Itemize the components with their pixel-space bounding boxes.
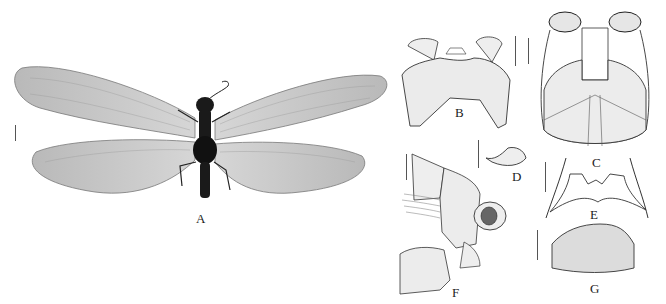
panel-b-plate: B	[400, 20, 520, 150]
panel-label-b: B	[455, 106, 464, 119]
plate-b-drawing	[400, 20, 520, 150]
panel-f-terminalia-lateral: F	[400, 150, 540, 304]
scale-bar-f	[406, 154, 407, 180]
panel-a-specimen: A	[0, 50, 400, 250]
scale-bar-b	[515, 36, 516, 66]
scale-bar-e	[545, 162, 546, 192]
terminalia-f-drawing	[400, 150, 540, 304]
panel-g-subgenital-plate: G	[530, 220, 666, 304]
scale-bar-a	[15, 125, 16, 141]
panel-label-f: F	[452, 286, 459, 299]
scale-bar-g	[537, 230, 538, 260]
scale-bar-c	[528, 38, 529, 64]
panel-label-g: G	[590, 282, 599, 295]
sclerite-e-drawing	[530, 150, 666, 230]
panel-label-a: A	[196, 212, 205, 225]
panel-c-terminalia-ventral: C	[520, 0, 666, 170]
terminalia-c-drawing	[520, 0, 666, 170]
panel-e-arched-sclerite: E	[530, 150, 666, 230]
